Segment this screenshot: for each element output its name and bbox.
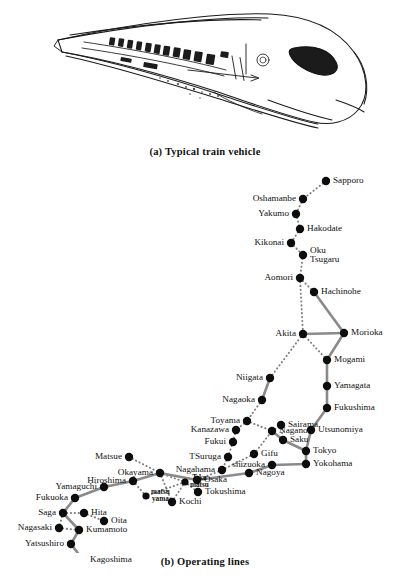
station-node-sapporo[interactable] [322,177,330,185]
station-label-niigata: Niigata [236,373,263,382]
station-label-saku: Saku [290,435,308,444]
station-label-akita: Akita [276,329,296,338]
station-label-fukuoka: Fukuoka [36,493,68,502]
station-node-aomori[interactable] [296,274,304,282]
station-label-kanazawa: Kanazawa [191,425,229,434]
station-node-gifu[interactable] [250,450,258,458]
station-node-matsue[interactable] [125,453,133,461]
station-node-hachinohe[interactable] [310,288,318,296]
station-node-kikonai[interactable] [287,239,295,247]
station-label-nagaoka: Nagaoka [222,395,255,404]
station-node-mogami[interactable] [323,356,331,364]
station-label-yamaguchi: Yamaguchi [56,482,97,491]
station-label-yakumo: Yakumo [258,209,289,218]
station-node-niigata[interactable] [266,374,274,382]
station-label-tokushima: Tokushima [205,487,246,496]
operating-line-segment [303,333,344,334]
station-label-hita: Hita [91,508,107,517]
station-label-matsue: Matsue [95,452,122,461]
operating-line-segment [314,292,344,333]
station-label-aomori: Aomori [264,273,293,282]
station-node-yamagata[interactable] [323,382,331,390]
station-label-fukui: Fukui [205,437,226,446]
caption-panel-a: (a) Typical train vehicle [0,146,410,157]
station-node-saga[interactable] [59,509,67,517]
station-label-nagoya: Nagoya [256,468,285,477]
station-label-hachinohe: Hachinohe [321,287,361,296]
station-node-saku[interactable] [279,436,287,444]
station-label-matsuyama: matsuyama [151,489,170,503]
station-label-tokyo: Tokyo [313,446,336,455]
station-label-yatsushiro: Yatsushiro [25,539,64,548]
station-node-nagano[interactable] [268,427,276,435]
panel-train-vehicle [0,0,410,150]
station-label-morioka: Morioka [351,328,383,337]
station-node-fukui[interactable] [229,438,237,446]
station-node-oshamanbe[interactable] [299,195,307,203]
station-label-gifu: Gifu [261,449,278,458]
station-label-saga: Saga [38,508,56,517]
station-label-mogami: Mogami [334,355,365,364]
station-label-hakodate: Hakodate [307,224,342,233]
station-node-yatsushiro[interactable] [67,540,75,548]
planned-line-segment [303,334,327,360]
station-node-fukuoka[interactable] [71,494,79,502]
station-node-tokyo[interactable] [302,447,310,455]
station-node-nagasaki[interactable] [55,524,63,532]
figure-container: (a) Typical train vehicle SapporoOshaman… [0,0,410,585]
station-label-yamagata: Yamagata [334,381,370,390]
station-node-akita[interactable] [299,330,307,338]
station-node-kanazawa[interactable] [232,426,240,434]
operating-line-segment [272,464,306,465]
station-node-hakodate[interactable] [296,225,304,233]
station-label-kumamoto: Kumamoto [86,525,127,534]
station-node-fukushima[interactable] [323,404,331,412]
station-nodes-group [55,177,348,553]
station-node-hiroshima[interactable] [129,477,137,485]
station-node-tsuruga[interactable] [224,453,232,461]
station-node-okayama[interactable] [156,469,164,477]
station-node-nagaoka[interactable] [258,396,266,404]
train-vehicle-illustration [18,4,392,144]
station-node-toyama[interactable] [243,417,251,425]
station-label-kikonai: Kikonai [254,238,284,247]
planned-line-segment [270,334,303,378]
station-label-yokohama: Yokohama [313,459,352,468]
station-node-hita[interactable] [80,509,88,517]
station-node-yokohama[interactable] [302,460,310,468]
station-node-nagahama[interactable] [218,466,226,474]
station-node-nagoya[interactable] [245,469,253,477]
planned-line-segment [303,181,326,199]
station-label-tsuruga: TSuruga [189,452,221,461]
station-label-fukushima: Fukushima [334,403,375,412]
station-label-oshamanbe: Oshamanbe [253,194,296,203]
station-label-sapporo: Sapporo [333,176,364,185]
station-node-tskamatsu[interactable] [181,478,188,485]
station-node-matsuyama[interactable] [142,492,149,499]
station-label-sairama: Sairama [288,420,318,429]
panel-operating-lines-map: SapporoOshamanbeYakumoHakodateKikonaiOku… [0,168,410,553]
station-node-morioka[interactable] [340,329,348,337]
station-label-kochi: Kochi [179,497,201,506]
station-label-okutsugaru: OkuTsugaru [310,246,339,264]
station-label-utsunomiya: Utsunomiya [318,425,363,434]
station-node-yakumo[interactable] [292,210,300,218]
station-label-nagasaki: Nagasaki [18,523,52,532]
planned-line-segment [300,278,303,334]
caption-panel-b: (b) Operating lines [0,556,410,567]
station-node-kumamoto[interactable] [75,526,83,534]
station-node-okutsugaru[interactable] [299,251,307,259]
